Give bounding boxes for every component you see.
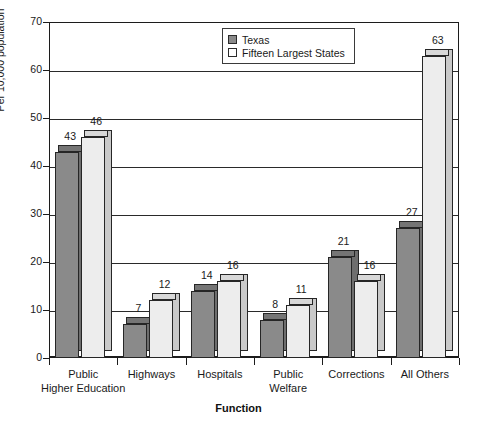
bar-front-face (217, 281, 241, 358)
bar-front-face (354, 281, 378, 358)
bar-top-face (220, 274, 244, 281)
bar-front-face (286, 305, 310, 358)
bar-tx-1 (123, 317, 147, 358)
bar-side-face (446, 49, 453, 351)
bar-front-face (328, 257, 352, 358)
bar-front-face (149, 300, 173, 358)
bar-fl-2 (217, 274, 241, 358)
y-tick-label-40: 40 (16, 159, 42, 171)
bar-front-face (260, 320, 284, 358)
legend-item-fifteen-largest-states: Fifteen Largest States (228, 46, 345, 59)
bar-fl-4 (354, 274, 378, 358)
bar-side-face (105, 130, 112, 351)
bar-tx-2 (191, 284, 215, 358)
bar-fl-0 (81, 130, 105, 358)
y-tick-label-70: 70 (16, 15, 42, 27)
bar-top-face (357, 274, 381, 281)
bar-front-face (55, 152, 79, 358)
legend: Texas Fifteen Largest States (222, 28, 355, 64)
bar-value-label: 11 (282, 283, 321, 295)
bar-top-face (84, 130, 108, 137)
bar-top-face (126, 317, 150, 324)
bar-value-label: 16 (213, 259, 252, 271)
bar-fl-3 (286, 298, 310, 358)
x-tick-mark-6 (459, 358, 460, 365)
bar-value-label: 16 (350, 259, 389, 271)
y-tick-label-0: 0 (16, 351, 42, 363)
legend-item-texas: Texas (228, 33, 345, 46)
bar-top-face (289, 298, 313, 305)
legend-swatch-fifteen-largest-states (228, 48, 237, 57)
x-tick-mark-2 (186, 358, 187, 365)
bar-top-face (194, 284, 218, 291)
bar-chart: Per 10,000 population 010203040506070 43… (0, 0, 477, 427)
y-tick-label-20: 20 (16, 255, 42, 267)
bar-tx-5 (396, 221, 420, 358)
bar-top-face (58, 145, 82, 152)
bar-tx-4 (328, 250, 352, 358)
bar-top-face (425, 49, 449, 56)
legend-label-texas: Texas (242, 34, 269, 46)
x-category-label-5: All Others (371, 368, 477, 382)
bar-front-face (422, 56, 446, 358)
bar-tx-3 (260, 313, 284, 358)
bar-top-face (263, 313, 287, 320)
bar-top-face (331, 250, 355, 257)
bar-front-face (81, 137, 105, 358)
x-tick-mark-5 (391, 358, 392, 365)
bar-front-face (123, 324, 147, 358)
bar-fl-5 (422, 49, 446, 358)
bar-front-face (191, 291, 215, 358)
x-tick-mark-3 (254, 358, 255, 365)
bar-front-face (396, 228, 420, 358)
y-tick-label-50: 50 (16, 111, 42, 123)
y-tick-label-30: 30 (16, 207, 42, 219)
x-tick-mark-0 (49, 358, 50, 365)
bar-top-face (152, 293, 176, 300)
x-axis-title: Function (0, 402, 477, 414)
x-tick-mark-1 (117, 358, 118, 365)
legend-label-fifteen-largest-states: Fifteen Largest States (242, 47, 345, 59)
legend-swatch-texas (228, 35, 237, 44)
bar-side-face (241, 274, 248, 351)
y-tick-label-10: 10 (16, 303, 42, 315)
bar-value-label: 46 (77, 115, 116, 127)
bar-value-label: 21 (324, 235, 363, 247)
bar-value-label: 12 (145, 278, 184, 290)
bar-side-face (310, 298, 317, 351)
bar-side-face (173, 293, 180, 351)
y-tick-label-60: 60 (16, 63, 42, 75)
y-axis-title: Per 10,000 population (0, 0, 6, 150)
bar-side-face (378, 274, 385, 351)
bar-tx-0 (55, 145, 79, 358)
bars-layer: 4346712141681121162763 (49, 22, 459, 358)
bar-top-face (399, 221, 423, 228)
x-tick-mark-4 (322, 358, 323, 365)
bar-fl-1 (149, 293, 173, 358)
bar-value-label: 63 (418, 34, 457, 46)
